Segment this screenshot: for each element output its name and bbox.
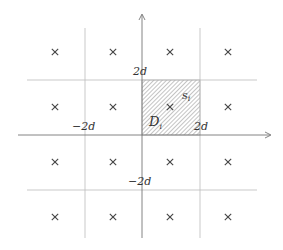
cross-marker-icon [225,159,231,165]
lattice-diagram: 2d −2d −2d 2d Di si [0,0,283,250]
cross-marker-icon [167,159,173,165]
cross-marker-icon [225,104,231,110]
cross-marker-icon [110,159,116,165]
cross-marker-icon [167,214,173,220]
label-x-left-neg-2d: −2d [72,120,95,133]
cross-marker-icon [225,49,231,55]
label-y-top-2d: 2d [132,65,147,78]
cross-marker-icon [110,49,116,55]
cross-marker-icon [52,49,58,55]
cross-marker-icon [110,104,116,110]
cross-marker-icon [52,214,58,220]
label-x-right-2d: 2d [193,120,208,133]
region-main: D [148,114,160,129]
label-y-bottom-neg-2d: −2d [128,175,151,188]
cross-marker-icon [225,214,231,220]
cross-marker-icon [167,49,173,55]
cross-marker-icon [52,104,58,110]
cross-marker-icon [110,214,116,220]
region-subscript: i [159,122,162,131]
point-subscript: i [188,94,191,103]
cross-marker-icon [52,159,58,165]
